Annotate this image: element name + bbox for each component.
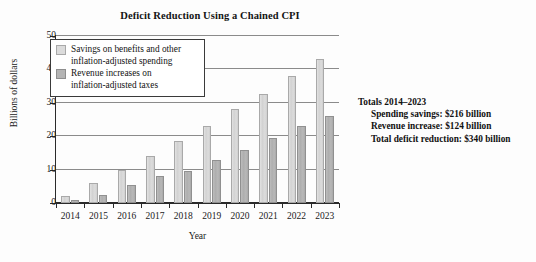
y-tick-label-20: 20 (12, 131, 56, 141)
x-tick-mark-2015 (84, 203, 85, 208)
bar-2022-series2 (297, 126, 306, 203)
legend-swatch-spending-icon (56, 45, 66, 55)
x-tick-mark-2018 (169, 203, 170, 208)
legend-label-revenue: Revenue increases oninflation-adjusted t… (71, 68, 158, 91)
bar-2016-series1 (118, 170, 127, 203)
bar-2019-series2 (212, 160, 221, 203)
x-tick-mark-2022 (282, 203, 283, 208)
y-axis-ticks: 01020304050 (0, 0, 56, 240)
bar-2017-series2 (156, 176, 165, 203)
totals-annotation: Totals 2014–2023 Spending savings: $216 … (358, 96, 534, 145)
totals-spending-savings: Spending savings: $216 billion (358, 108, 534, 120)
bar-2019-series1 (203, 126, 212, 203)
chart-figure: Deficit Reduction Using a Chained CPI Bi… (0, 0, 536, 262)
x-tick-mark-2017 (141, 203, 142, 208)
y-tick-label-10: 10 (12, 165, 56, 175)
bar-2017-series1 (146, 156, 155, 203)
bar-2022-series1 (288, 76, 297, 203)
bar-2014-series1 (61, 196, 70, 203)
x-tick-label-2023: 2023 (305, 211, 345, 221)
legend-label-spending: Savings on benefits and otherinflation-a… (71, 44, 181, 67)
x-tick-mark-2023 (311, 203, 312, 208)
bar-group-2023 (311, 36, 339, 203)
bar-group-2022 (282, 36, 310, 203)
x-tick-mark-2016 (113, 203, 114, 208)
x-tick-mark-end (339, 203, 340, 208)
bar-2023-series2 (325, 116, 334, 203)
legend-swatch-revenue-icon (56, 69, 66, 79)
legend-item: Revenue increases oninflation-adjusted t… (56, 68, 199, 91)
legend-item: Savings on benefits and otherinflation-a… (56, 44, 199, 67)
x-tick-mark-2021 (254, 203, 255, 208)
x-axis-title: Year (56, 231, 339, 241)
bar-2016-series2 (127, 185, 136, 203)
bar-2014-series2 (71, 200, 80, 203)
chart-title: Deficit Reduction Using a Chained CPI (0, 10, 420, 21)
bar-2020-series1 (231, 109, 240, 203)
totals-deficit-reduction: Total deficit reduction: $340 billion (358, 133, 534, 145)
bar-group-2020 (226, 36, 254, 203)
bar-2018-series2 (184, 171, 193, 203)
y-tick-label-0: 0 (12, 198, 56, 208)
bar-2015-series2 (99, 195, 108, 203)
bar-2018-series1 (174, 141, 183, 203)
y-tick-label-30: 30 (12, 98, 56, 108)
bar-2021-series2 (269, 138, 278, 203)
bar-2021-series1 (259, 94, 268, 203)
x-tick-mark-2020 (226, 203, 227, 208)
totals-revenue-increase: Revenue increase: $124 billion (358, 120, 534, 132)
bar-2015-series1 (89, 183, 98, 203)
chart-legend: Savings on benefits and otherinflation-a… (50, 39, 205, 97)
x-tick-mark-2019 (198, 203, 199, 208)
bar-group-2021 (254, 36, 282, 203)
bar-2023-series1 (316, 59, 325, 203)
totals-heading: Totals 2014–2023 (358, 96, 534, 108)
bar-2020-series2 (240, 150, 249, 203)
x-tick-mark-2014 (56, 203, 57, 208)
